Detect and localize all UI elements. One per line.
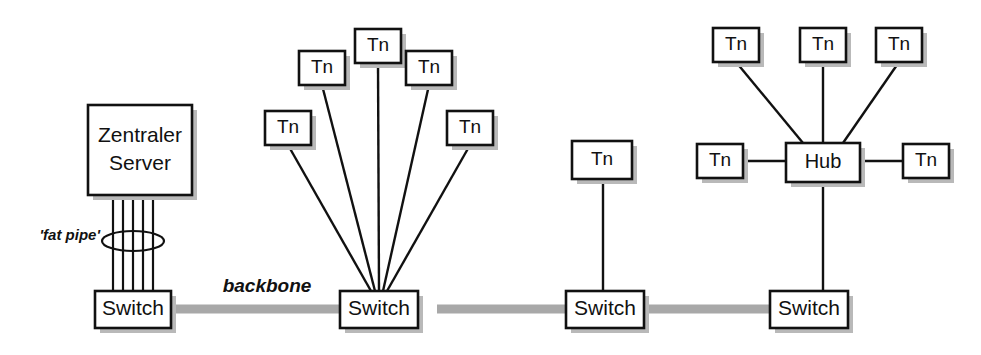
node-tn-h-e[interactable]: Tn [903,144,954,183]
link-line [322,85,375,291]
link-line [288,145,371,291]
node-hub-1[interactable]: Hub [786,143,865,187]
node-tn-h-w[interactable]: Tn [697,144,748,183]
node-label: Tn [709,149,731,170]
node-tn-s2-c[interactable]: Tn [355,29,406,68]
node-label: Switch [574,296,636,319]
node-switch-2[interactable]: Switch [340,291,423,333]
node-label: Hub [805,150,842,172]
node-label: Tn [888,33,910,54]
node-label: Tn [812,33,834,54]
network-diagram: ZentralerServerSwitchSwitchSwitchSwitchH… [0,0,981,355]
node-label: Tn [915,149,937,170]
annotation-backbone: backbone [223,275,312,296]
node-label: Tn [277,116,299,137]
node-switch-3[interactable]: Switch [566,291,649,333]
node-tn-h-ne[interactable]: Tn [876,28,927,67]
node-server-1[interactable]: ZentralerServer [88,105,197,200]
node-tn-s2-d[interactable]: Tn [406,51,457,90]
node-label: Tn [725,33,747,54]
diagram-canvas: ZentralerServerSwitchSwitchSwitchSwitchH… [0,0,981,355]
node-label: Server [109,151,171,174]
node-label: Tn [311,56,333,77]
node-tn-s2-a[interactable]: Tn [265,111,316,150]
node-switch-4[interactable]: Switch [770,291,853,333]
node-tn-h-n[interactable]: Tn [800,28,851,67]
node-label: Zentraler [98,123,182,146]
node-tn-s2-b[interactable]: Tn [299,51,350,90]
node-tn-s2-e[interactable]: Tn [447,111,498,150]
node-tn-s3-a[interactable]: Tn [572,141,637,184]
annotation-layer: 'fat pipe'backbone [40,226,312,296]
fat-pipe-layer [102,195,164,292]
node-label: Tn [367,34,389,55]
node-tn-h-nw[interactable]: Tn [713,28,764,67]
node-label: Tn [418,56,440,77]
link-line [736,62,803,143]
link-line [843,62,899,143]
link-line [378,63,379,291]
link-line [383,85,429,291]
node-label: Tn [459,116,481,137]
annotation-fat-pipe: 'fat pipe' [40,226,101,243]
node-label: Switch [778,296,840,319]
node-label: Switch [348,296,410,319]
node-switch-1[interactable]: Switch [95,291,176,333]
node-label: Switch [102,296,164,319]
node-label: Tn [591,148,613,169]
